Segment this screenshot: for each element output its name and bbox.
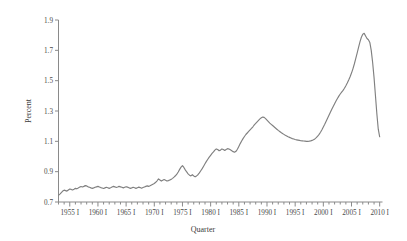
x-tick-label: 1960 I bbox=[89, 209, 108, 217]
x-tick-label: 1970 I bbox=[145, 209, 164, 217]
x-tick-label: 2005 I bbox=[342, 209, 361, 217]
x-tick-label: 1985 I bbox=[230, 209, 249, 217]
x-tick-label: 1975 I bbox=[173, 209, 192, 217]
x-tick-label: 1955 I bbox=[60, 209, 79, 217]
x-tick-label: 1980 I bbox=[201, 209, 220, 217]
y-tick-label: 1.5 bbox=[44, 77, 53, 85]
y-axis-title: Percent bbox=[24, 98, 33, 123]
x-tick-label: 1990 I bbox=[258, 209, 277, 217]
y-tick-label: 1.1 bbox=[44, 138, 53, 146]
y-axis-ticks bbox=[55, 20, 59, 202]
x-tick-label: 2000 I bbox=[314, 209, 333, 217]
x-tick-label: 1995 I bbox=[286, 209, 305, 217]
x-tick-label: 1965 I bbox=[117, 209, 136, 217]
y-tick-label: 1.3 bbox=[44, 108, 53, 116]
x-axis-ticks bbox=[59, 202, 380, 207]
x-axis-tick-labels: 1955 I1960 I1965 I1970 I1975 I1980 I1985… bbox=[60, 209, 389, 217]
y-axis-tick-labels: 0.70.91.11.31.51.71.9 bbox=[44, 17, 53, 207]
y-tick-label: 0.7 bbox=[44, 199, 53, 207]
y-tick-label: 0.9 bbox=[44, 168, 53, 176]
x-axis-title: Quarter bbox=[191, 225, 216, 234]
chart-container: 0.70.91.11.31.51.71.9 1955 I1960 I1965 I… bbox=[0, 0, 407, 241]
x-tick-label: 2010 I bbox=[370, 209, 389, 217]
line-chart: 0.70.91.11.31.51.71.9 1955 I1960 I1965 I… bbox=[0, 0, 407, 241]
plot-area: 0.70.91.11.31.51.71.9 1955 I1960 I1965 I… bbox=[44, 17, 390, 217]
y-tick-label: 1.9 bbox=[44, 17, 53, 25]
data-series-line bbox=[59, 33, 380, 195]
y-tick-label: 1.7 bbox=[44, 47, 53, 55]
